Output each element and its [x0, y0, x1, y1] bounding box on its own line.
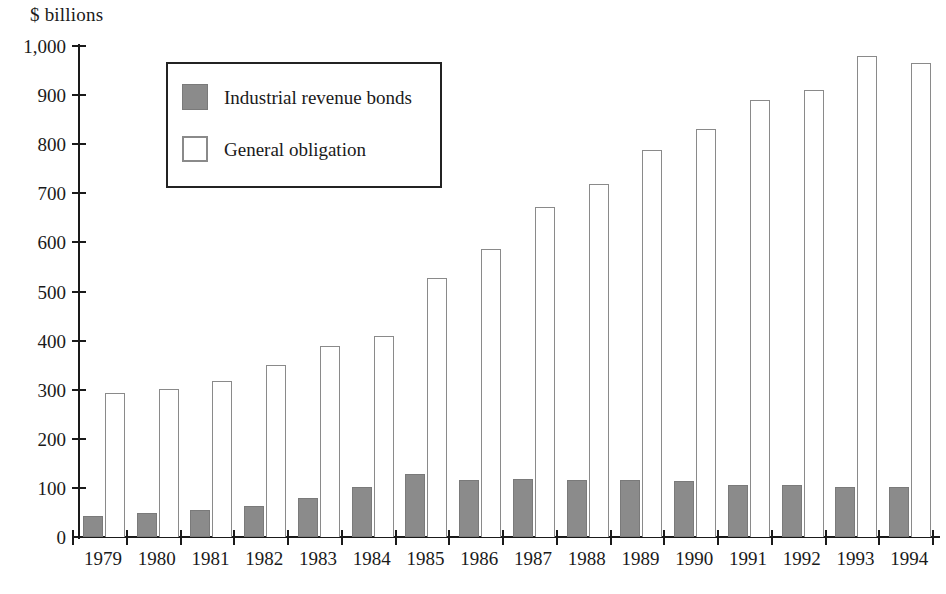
y-axis-tick-label: 100 — [0, 478, 66, 497]
legend: Industrial revenue bonds General obligat… — [166, 62, 442, 188]
x-axis-tick — [502, 530, 504, 545]
bar-general-obligation — [320, 346, 340, 537]
x-axis-tick — [932, 530, 934, 545]
y-axis-tick-label: 400 — [0, 331, 66, 350]
bar-industrial-revenue-bonds — [137, 513, 157, 537]
y-axis-tick-label: 600 — [0, 233, 66, 252]
bar-general-obligation — [105, 393, 125, 537]
bar-industrial-revenue-bonds — [620, 480, 640, 537]
bar-industrial-revenue-bonds — [405, 474, 425, 537]
bar-industrial-revenue-bonds — [459, 480, 479, 537]
bar-general-obligation — [750, 100, 770, 537]
x-axis-tick-label: 1984 — [353, 548, 391, 570]
legend-label-industrial-revenue-bonds: Industrial revenue bonds — [224, 88, 412, 107]
bar-industrial-revenue-bonds — [835, 487, 855, 537]
x-axis-tick-label: 1985 — [406, 548, 444, 570]
y-axis-tick-label: 700 — [0, 184, 66, 203]
x-axis-tick — [72, 530, 74, 545]
x-axis-tick-label: 1994 — [890, 548, 928, 570]
x-axis-tick-label: 1987 — [514, 548, 552, 570]
bar-industrial-revenue-bonds — [782, 485, 802, 537]
bar-industrial-revenue-bonds — [513, 479, 533, 537]
bar-group — [567, 40, 609, 537]
x-axis-tick-label: 1981 — [191, 548, 229, 570]
bar-industrial-revenue-bonds — [244, 506, 264, 537]
x-axis-tick-label: 1986 — [460, 548, 498, 570]
x-axis-tick-label: 1993 — [836, 548, 874, 570]
bar-industrial-revenue-bonds — [190, 510, 210, 537]
bar-group — [513, 40, 555, 537]
legend-swatch-icon-general-obligation — [182, 136, 208, 162]
legend-swatch-icon-industrial-revenue-bonds — [182, 84, 208, 110]
bar-general-obligation — [642, 150, 662, 537]
bar-industrial-revenue-bonds — [352, 487, 372, 537]
y-axis-tick-label: 300 — [0, 380, 66, 399]
legend-item-general-obligation: General obligation — [182, 136, 366, 162]
x-axis-tick-label: 1980 — [138, 548, 176, 570]
y-axis-tick-label: 900 — [0, 86, 66, 105]
bar-industrial-revenue-bonds — [83, 516, 103, 537]
x-axis-tick — [771, 530, 773, 545]
bar-general-obligation — [212, 381, 232, 537]
bar-chart: $ billions 01002003004005006007008009001… — [0, 0, 946, 594]
y-axis-tick-label: 800 — [0, 135, 66, 154]
bar-industrial-revenue-bonds — [567, 480, 587, 537]
y-axis-tick-labels: 01002003004005006007008009001,000 — [0, 0, 66, 594]
y-axis-tick-label: 1,000 — [0, 37, 66, 56]
x-axis-tick — [610, 530, 612, 545]
bar-general-obligation — [266, 365, 286, 537]
bar-group — [728, 40, 770, 537]
x-axis-tick — [287, 530, 289, 545]
x-axis-tick — [448, 530, 450, 545]
x-axis-tick — [825, 530, 827, 545]
bar-group — [835, 40, 877, 537]
x-axis-tick — [717, 530, 719, 545]
bar-general-obligation — [589, 184, 609, 537]
bar-group — [674, 40, 716, 537]
x-axis-tick-label: 1991 — [729, 548, 767, 570]
bar-industrial-revenue-bonds — [728, 485, 748, 537]
x-axis-tick — [878, 530, 880, 545]
bar-general-obligation — [696, 129, 716, 537]
bar-group — [459, 40, 501, 537]
bar-general-obligation — [159, 389, 179, 537]
x-axis-tick — [341, 530, 343, 545]
legend-item-industrial-revenue-bonds: Industrial revenue bonds — [182, 84, 412, 110]
legend-label-general-obligation: General obligation — [224, 140, 366, 159]
x-axis-tick — [395, 530, 397, 545]
x-axis-tick — [180, 530, 182, 545]
x-axis-tick-label: 1992 — [783, 548, 821, 570]
bar-group — [782, 40, 824, 537]
x-axis-tick-label: 1982 — [245, 548, 283, 570]
x-axis-tick — [233, 530, 235, 545]
bar-general-obligation — [857, 56, 877, 537]
bar-group — [889, 40, 931, 537]
bar-general-obligation — [481, 249, 501, 537]
y-axis-tick-label: 500 — [0, 282, 66, 301]
bar-industrial-revenue-bonds — [889, 487, 909, 537]
bar-general-obligation — [427, 278, 447, 537]
bar-general-obligation — [804, 90, 824, 537]
x-axis-tick — [126, 530, 128, 545]
x-axis-tick-label: 1990 — [675, 548, 713, 570]
bar-group — [83, 40, 125, 537]
bar-general-obligation — [911, 63, 931, 537]
bar-general-obligation — [535, 207, 555, 537]
bar-industrial-revenue-bonds — [674, 481, 694, 537]
bar-industrial-revenue-bonds — [298, 498, 318, 537]
x-axis-tick-label: 1979 — [84, 548, 122, 570]
y-axis-tick-label: 200 — [0, 429, 66, 448]
y-axis-tick-label: 0 — [0, 528, 66, 547]
x-axis-tick — [556, 530, 558, 545]
x-axis-tick — [663, 530, 665, 545]
x-axis-tick-label: 1983 — [299, 548, 337, 570]
bar-group — [620, 40, 662, 537]
bar-general-obligation — [374, 336, 394, 537]
x-axis-tick-label: 1989 — [621, 548, 659, 570]
x-axis-tick-label: 1988 — [568, 548, 606, 570]
